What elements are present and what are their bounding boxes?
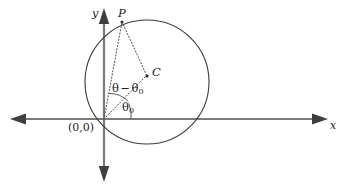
point-marker-c [145, 74, 148, 77]
angle-subscript-zero: 0 [129, 106, 134, 115]
diagram-canvas [0, 0, 343, 184]
x-axis-arrow-right [312, 114, 328, 125]
angle-theta-symbol: θ [112, 81, 119, 95]
y-axis-arrow-up [99, 8, 109, 24]
angle-subscript-zero-2: 0 [139, 87, 144, 96]
geometry-diagram: y x P C (0,0) θ−θ0 θ0 [0, 0, 343, 184]
x-axis-arrow-left [10, 114, 26, 125]
y-axis-label: y [92, 8, 98, 19]
x-axis [10, 114, 328, 125]
segment-p-to-c [122, 22, 147, 76]
point-label-c: C [152, 67, 161, 79]
y-axis-arrow-down [99, 166, 109, 182]
angle-minus-operator: − [119, 81, 132, 95]
segment-origin-to-p [104, 22, 122, 119]
angle-label-theta0: θ0 [122, 102, 134, 115]
angle-label-theta-minus-theta0: θ−θ0 [112, 83, 144, 96]
origin-label: (0,0) [68, 122, 94, 133]
point-marker-p [121, 21, 124, 24]
x-axis-label: x [330, 120, 336, 131]
angle-theta0-symbol: θ [122, 100, 129, 114]
angle-theta-symbol-2: θ [132, 81, 139, 95]
point-label-p: P [118, 8, 126, 20]
